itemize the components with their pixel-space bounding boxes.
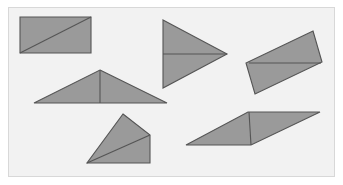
flat-parallelogram-with-vertical-divider	[186, 112, 320, 145]
shapes-group	[20, 17, 322, 163]
quadrilateral-with-diagonal	[87, 114, 150, 163]
shapes-canvas	[0, 0, 343, 185]
